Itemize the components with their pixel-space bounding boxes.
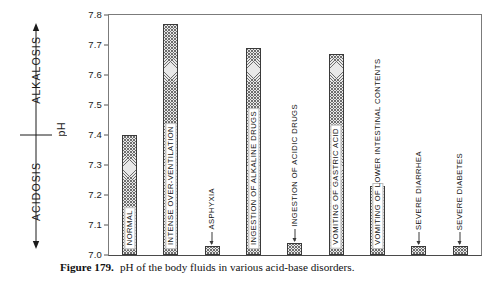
bar[interactable] [205,246,220,255]
bar-category-label: INGESTION OF ALKALINE DRUGS [248,108,259,249]
bar-category-label: VOMITING OF LOWER INTESTINAL CONTENTS [372,183,383,249]
bar-group: INGESTION OF ACIDIC DRUGS [274,15,315,255]
y-axis-tick-label: 7.2 [88,190,102,200]
bar-group: ASPHYXIA [192,15,233,255]
alkalosis-direction-label: ALKALOSIS [30,36,42,104]
y-axis-tick-label: 7.0 [88,250,102,260]
label-leader-arrow-icon [294,229,295,241]
y-axis-tick-label: 7.8 [88,10,102,20]
bar-category-label: NORMAL [124,207,135,249]
acidosis-direction-label: ACIDOSIS [30,162,42,221]
axis-direction-annotation: ALKALOSIS ACIDOSIS pH [0,14,72,256]
bars-layer: NORMALINTENSE OVER-VENTILATIONASPHYXIAIN… [109,15,481,255]
bar-category-label: INGESTION OF ACIDIC DRUGS [291,104,299,227]
bar-category-label: SEVERE DIABETES [457,153,465,230]
bar-group: SEVERE DIABETES [440,15,481,255]
figure-caption: Figure 179.pH of the body fluids in vari… [60,261,460,273]
bar[interactable] [411,246,426,255]
bar-group: NORMAL [109,15,150,255]
label-leader-arrow-icon [460,232,461,244]
figure-number: Figure 179. [60,261,114,273]
y-axis-tick-label: 7.7 [88,40,102,50]
bar-category-label: ASPHYXIA [209,188,217,230]
y-axis-tick-label: 7.3 [88,160,102,170]
bar-group: INTENSE OVER-VENTILATION [150,15,191,255]
bar-group: VOMITING OF LOWER INTESTINAL CONTENTS [357,15,398,255]
bar[interactable] [287,243,302,255]
y-axis-tick-label: 7.5 [88,100,102,110]
y-axis-tick-label: 7.1 [88,220,102,230]
y-axis-tick-label: 7.6 [88,70,102,80]
figure-caption-text: pH of the body fluids in various acid-ba… [120,261,355,273]
bar-category-label: SEVERE DIARRHEA [415,151,423,230]
y-axis: 7.07.17.27.37.47.57.67.77.8 [76,14,108,256]
y-axis-title: pH [55,122,67,136]
bar-group: VOMITING OF GASTRIC ACID [316,15,357,255]
label-leader-arrow-icon [418,232,419,244]
bar-category-label: VOMITING OF GASTRIC ACID [331,125,342,249]
label-leader-arrow-icon [212,232,213,244]
chart-plot-area: 7.07.17.27.37.47.57.67.77.8 NORMALINTENS… [76,14,482,256]
bar-group: INGESTION OF ALKALINE DRUGS [233,15,274,255]
figure-container: ALKALOSIS ACIDOSIS pH 7.07.17.27.37.47.5… [0,0,490,283]
bar-category-label: INTENSE OVER-VENTILATION [166,123,177,249]
bar[interactable] [453,246,468,255]
bar-group: SEVERE DIARRHEA [398,15,439,255]
y-axis-tick-label: 7.4 [88,130,102,140]
